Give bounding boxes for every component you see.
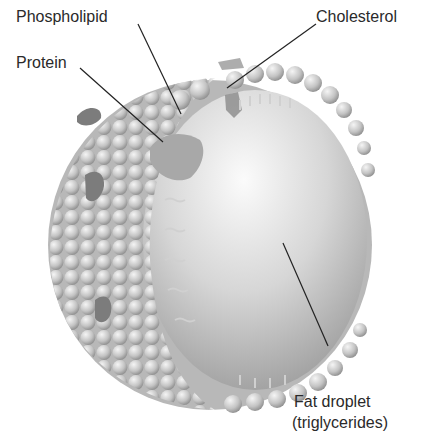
label-protein: Protein: [16, 53, 67, 72]
lipoprotein-sphere: [48, 58, 375, 413]
label-cholesterol: Cholesterol: [316, 7, 397, 26]
label-triglycerides: (triglycerides): [292, 413, 388, 432]
label-fat-droplet: Fat droplet: [294, 392, 370, 411]
label-phospholipid: Phospholipid: [16, 7, 108, 26]
